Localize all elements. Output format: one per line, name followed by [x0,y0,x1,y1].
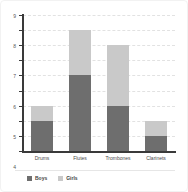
legend-swatch-icon [27,176,32,181]
bar-segment-girls[interactable] [31,106,53,121]
bar-segment-boys[interactable] [31,121,53,151]
y-axis-line [22,14,24,152]
bar-segment-girls[interactable] [145,121,167,136]
y-axis-tick-label: 4 [13,165,16,170]
y-axis-tick-label: 8 [13,44,16,49]
y-axis-tick-label: 7 [13,74,16,79]
bar-group[interactable] [145,15,167,151]
chart-legend: BoysGirls [27,176,78,181]
legend-item-girls[interactable]: Girls [58,176,77,181]
bar-chart-card: 0123456789 BoysGirls DrumsFlutesTrombone… [0,0,188,192]
legend-label: Girls [66,176,77,181]
bar-segment-boys[interactable] [69,75,91,151]
x-axis-tick-label: Clarinets [137,155,175,161]
y-axis-tick-label: 9 [13,14,16,19]
y-axis-tick-label: 6 [13,104,16,109]
legend-separator [15,170,175,171]
plot-area: 0123456789 [23,15,175,151]
bar-segment-boys[interactable] [107,106,129,151]
y-axis-tick-label: 5 [13,134,16,139]
bar-group[interactable] [107,15,129,151]
bar-segment-girls[interactable] [69,30,91,75]
bar-segment-boys[interactable] [145,136,167,151]
legend-swatch-icon [58,176,63,181]
x-axis-tick-label: Trombones [99,155,137,161]
legend-label: Boys [35,176,47,181]
x-axis-tick-label: Drums [23,155,61,161]
x-axis-line [22,151,176,153]
bar-group[interactable] [31,15,53,151]
bars-layer [23,15,175,151]
x-axis-tick-label: Flutes [61,155,99,161]
legend-item-boys[interactable]: Boys [27,176,47,181]
bar-group[interactable] [69,15,91,151]
bar-segment-girls[interactable] [107,45,129,105]
